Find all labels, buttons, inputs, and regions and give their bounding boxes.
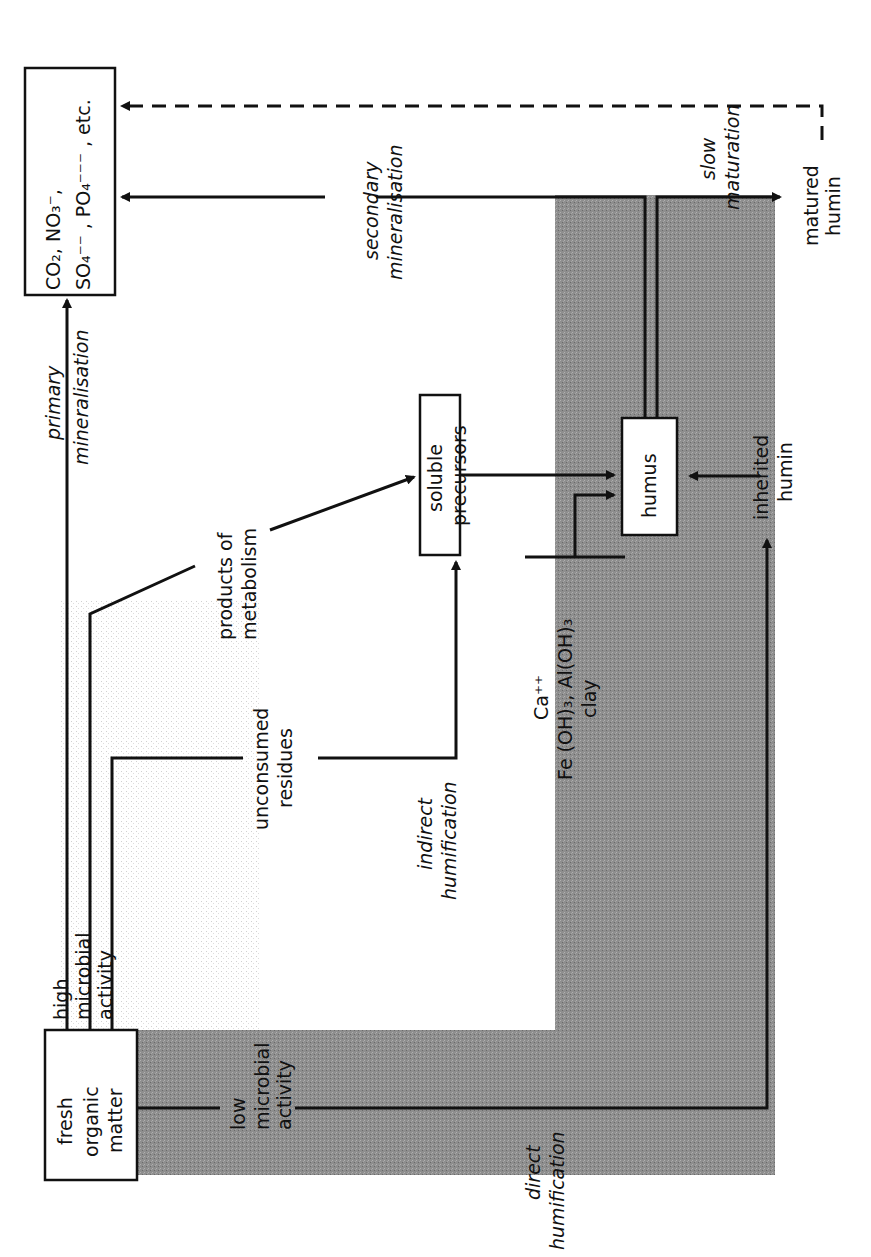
svg-text:metabolism: metabolism <box>238 528 260 640</box>
svg-text:low: low <box>227 1098 249 1130</box>
secondary-mineralisation-label: secondary mineralisation <box>360 145 406 280</box>
svg-text:primary: primary <box>42 365 64 441</box>
svg-text:direct: direct <box>522 1144 544 1200</box>
indirect-humification-label: indirect humification <box>414 781 460 900</box>
svg-text:precursors: precursors <box>448 425 470 526</box>
products-arrow-tail <box>270 477 414 530</box>
svg-text:maturation: maturation <box>721 105 743 211</box>
svg-text:SO₄⁻⁻ , PO₄⁻⁻⁻ , etc.: SO₄⁻⁻ , PO₄⁻⁻⁻ , etc. <box>72 99 94 290</box>
humification-diagram: CO₂, NO₃⁻, SO₄⁻⁻ , PO₄⁻⁻⁻ , etc. fresh o… <box>0 0 871 1257</box>
svg-text:microbial: microbial <box>72 932 94 1020</box>
svg-text:secondary: secondary <box>360 161 382 260</box>
svg-text:high: high <box>50 979 72 1020</box>
svg-text:mineralisation: mineralisation <box>70 330 92 465</box>
mineral-products-box <box>25 68 115 295</box>
svg-text:organic: organic <box>80 1086 102 1157</box>
svg-text:inherited: inherited <box>750 435 772 520</box>
svg-text:mineralisation: mineralisation <box>384 145 406 280</box>
svg-text:matured: matured <box>800 165 822 246</box>
svg-text:clay: clay <box>578 679 600 718</box>
slow-maturation-label: slow maturation <box>697 105 743 211</box>
svg-text:soluble: soluble <box>424 444 446 512</box>
svg-text:indirect: indirect <box>414 796 436 870</box>
svg-text:slow: slow <box>697 137 719 180</box>
svg-text:unconsumed: unconsumed <box>250 708 272 830</box>
svg-text:humus: humus <box>638 453 660 518</box>
svg-text:humification: humification <box>438 781 460 900</box>
matured-humin-return-dashed <box>122 106 822 140</box>
unconsumed-residues-label: unconsumed residues <box>250 708 296 830</box>
matured-humin-label: matured humin <box>800 165 844 246</box>
svg-text:residues: residues <box>274 728 296 808</box>
svg-text:Fe (OH)₃, Al(OH)₃: Fe (OH)₃, Al(OH)₃ <box>554 619 576 780</box>
svg-text:products of: products of <box>214 531 236 640</box>
svg-text:fresh: fresh <box>54 1097 76 1145</box>
svg-text:humin: humin <box>822 176 844 236</box>
humus-label: humus <box>638 453 660 518</box>
svg-text:activity: activity <box>94 950 116 1020</box>
indirect-humification-arrow <box>318 562 456 758</box>
svg-text:microbial: microbial <box>251 1042 273 1130</box>
svg-text:humin: humin <box>774 442 796 502</box>
svg-text:CO₂, NO₃⁻,: CO₂, NO₃⁻, <box>42 189 64 290</box>
svg-text:humification: humification <box>546 1131 568 1250</box>
svg-text:activity: activity <box>273 1060 295 1130</box>
svg-text:matter: matter <box>104 1088 126 1153</box>
svg-text:Ca⁺⁺: Ca⁺⁺ <box>530 675 552 720</box>
